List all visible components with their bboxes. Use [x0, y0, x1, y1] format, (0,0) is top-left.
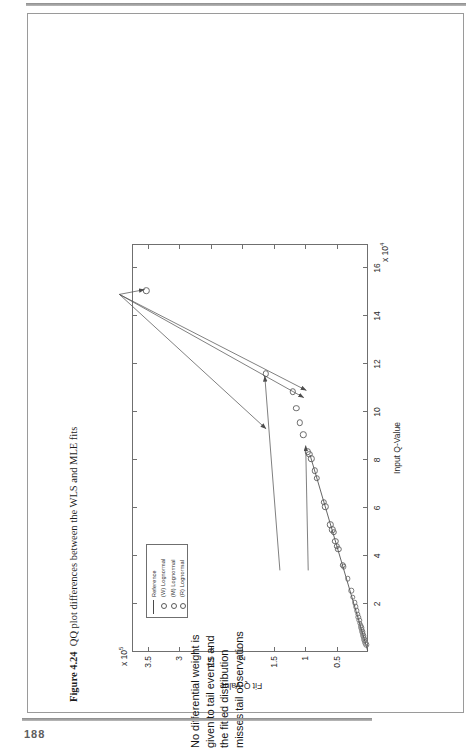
page-header-rule [26, 3, 466, 6]
annotation-arrow [306, 446, 309, 571]
figure-frame: Figure 4.24 QQ plot differences between … [27, 13, 464, 713]
page-number: 188 [24, 728, 45, 740]
annotation-arrows-layer [116, 214, 416, 714]
page-footer-rule [22, 718, 372, 721]
figure-caption: Figure 4.24 QQ plot differences between … [68, 42, 79, 702]
figure-caption-text: QQ plot differences between the WLS and … [68, 427, 79, 646]
annotation-arrow [119, 294, 306, 390]
annotation-arrow [265, 376, 280, 570]
reference-line [310, 455, 368, 651]
annotation-left: No differential weight is given to tail … [188, 630, 246, 748]
annotation-arrow [119, 294, 266, 428]
annotation-arrow [119, 290, 144, 295]
plot-inner: x 105 2468101214160.511.522.533.5 Input … [116, 214, 416, 714]
qq-plot: x 105 2468101214160.511.522.533.5 Input … [116, 214, 416, 714]
figure-caption-label: Figure 4.24 [68, 651, 79, 702]
annotation-arrow [119, 294, 303, 397]
